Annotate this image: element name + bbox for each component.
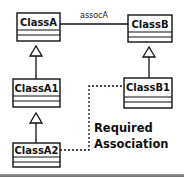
association-assocA: assocA — [60, 11, 128, 24]
class-box-ClassB[interactable]: ClassB — [128, 15, 172, 42]
generalization-B1-to-B — [143, 47, 155, 78]
note-line-1: Required — [94, 121, 153, 135]
inheritance-arrow-icon — [30, 46, 42, 56]
class-name: ClassA1 — [14, 83, 58, 94]
class-box-ClassB1[interactable]: ClassB1 — [124, 78, 172, 108]
class-box-ClassA2[interactable]: ClassA2 — [13, 143, 60, 167]
association-label: assocA — [80, 11, 109, 20]
class-name: ClassB — [131, 19, 168, 30]
generalization-A1-to-A — [30, 46, 42, 79]
class-name: ClassB1 — [126, 82, 170, 93]
required-association-note: Required Association — [94, 121, 169, 151]
uml-class-diagram: assocA ClassA ClassB ClassA1 ClassB1 — [0, 0, 184, 177]
generalization-A2-to-A1 — [30, 113, 42, 143]
class-name: ClassA2 — [14, 145, 58, 156]
inheritance-arrow-icon — [143, 47, 155, 57]
note-line-2: Association — [94, 137, 169, 151]
bottom-border — [0, 174, 184, 177]
class-box-ClassA1[interactable]: ClassA1 — [13, 79, 60, 107]
class-name: ClassA — [20, 17, 57, 28]
inheritance-arrow-icon — [30, 113, 42, 123]
class-box-ClassA[interactable]: ClassA — [17, 13, 60, 41]
